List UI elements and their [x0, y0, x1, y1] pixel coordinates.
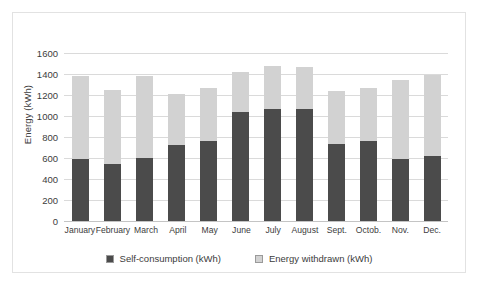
- stacked-bar[interactable]: [136, 76, 153, 221]
- bar-segment-energy-withdrawn[interactable]: [264, 66, 281, 109]
- x-tick-label: Octob.: [353, 225, 385, 235]
- y-tick-label-0: 0: [53, 216, 58, 227]
- legend-label: Energy withdrawn (kWh): [269, 253, 372, 264]
- x-tick-label: January: [64, 225, 96, 235]
- stacked-bar[interactable]: [232, 72, 249, 221]
- bar-segment-energy-withdrawn[interactable]: [72, 76, 89, 159]
- stacked-bar[interactable]: [360, 88, 377, 221]
- bar-segment-energy-withdrawn[interactable]: [296, 67, 313, 110]
- x-tick-label: June: [226, 225, 258, 235]
- bar-segment-energy-withdrawn[interactable]: [104, 90, 121, 164]
- stacked-bar[interactable]: [392, 80, 409, 221]
- bar-segment-energy-withdrawn[interactable]: [328, 91, 345, 145]
- stacked-bar[interactable]: [424, 75, 441, 221]
- bar-slot: [288, 53, 320, 221]
- y-tick-label-1000: 1000: [37, 111, 58, 122]
- chart-legend: Self-consumption (kWh)Energy withdrawn (…: [13, 253, 465, 264]
- bar-slot: [192, 53, 224, 221]
- bar-segment-self-consumption[interactable]: [136, 158, 153, 221]
- bar-segment-self-consumption[interactable]: [296, 109, 313, 221]
- stacked-bar[interactable]: [296, 67, 313, 221]
- y-tick-label-400: 400: [42, 174, 58, 185]
- bar-segment-self-consumption[interactable]: [360, 141, 377, 221]
- bar-segment-self-consumption[interactable]: [72, 159, 89, 221]
- plot-area: 16001400120010008006004002000: [64, 53, 448, 221]
- bar-segment-energy-withdrawn[interactable]: [360, 88, 377, 141]
- bar-segment-self-consumption[interactable]: [232, 112, 249, 221]
- bar-segment-self-consumption[interactable]: [104, 164, 121, 221]
- stacked-bar[interactable]: [168, 94, 185, 221]
- stacked-bar[interactable]: [328, 91, 345, 221]
- legend-item[interactable]: Self-consumption (kWh): [106, 253, 221, 264]
- x-tick-label: May: [194, 225, 226, 235]
- bar-slot: [416, 53, 448, 221]
- stacked-bar[interactable]: [200, 88, 217, 221]
- y-axis-title: Energy (kWh): [22, 60, 33, 170]
- x-tick-label: Dec.: [416, 225, 448, 235]
- y-tick-label-1200: 1200: [37, 90, 58, 101]
- y-tick-label-1600: 1600: [37, 48, 58, 59]
- legend-swatch-icon: [106, 255, 114, 263]
- y-tick-label-600: 600: [42, 153, 58, 164]
- x-tick-label: April: [162, 225, 194, 235]
- bar-segment-self-consumption[interactable]: [424, 156, 441, 221]
- bar-slot: [256, 53, 288, 221]
- bar-slot: [128, 53, 160, 221]
- bar-segment-self-consumption[interactable]: [200, 141, 217, 221]
- stacked-bar[interactable]: [104, 90, 121, 221]
- bar-series-group: [64, 53, 448, 221]
- bar-slot: [64, 53, 96, 221]
- bar-segment-self-consumption[interactable]: [328, 144, 345, 221]
- bar-slot: [96, 53, 128, 221]
- x-tick-label: August: [289, 225, 321, 235]
- legend-label: Self-consumption (kWh): [120, 253, 221, 264]
- bar-segment-energy-withdrawn[interactable]: [200, 88, 217, 141]
- bar-segment-energy-withdrawn[interactable]: [168, 94, 185, 145]
- bar-segment-energy-withdrawn[interactable]: [392, 80, 409, 159]
- x-axis-tick-labels: JanuaryFebruaryMarchAprilMayJuneJulyAugu…: [64, 225, 448, 235]
- x-tick-label: Nov.: [384, 225, 416, 235]
- y-tick-label-1400: 1400: [37, 69, 58, 80]
- legend-swatch-icon: [255, 255, 263, 263]
- bar-segment-energy-withdrawn[interactable]: [232, 72, 249, 112]
- x-tick-label: March: [130, 225, 162, 235]
- legend-item[interactable]: Energy withdrawn (kWh): [255, 253, 372, 264]
- stacked-bar[interactable]: [72, 76, 89, 221]
- bar-segment-energy-withdrawn[interactable]: [424, 75, 441, 156]
- bar-segment-self-consumption[interactable]: [168, 145, 185, 221]
- bar-segment-energy-withdrawn[interactable]: [136, 76, 153, 158]
- bar-slot: [352, 53, 384, 221]
- x-tick-label: July: [257, 225, 289, 235]
- chart-figure: Energy (kWh) 160014001200100080060040020…: [12, 12, 466, 273]
- stacked-bar[interactable]: [264, 66, 281, 221]
- bar-slot: [160, 53, 192, 221]
- y-tick-label-200: 200: [42, 195, 58, 206]
- bar-segment-self-consumption[interactable]: [264, 109, 281, 221]
- y-tick-label-800: 800: [42, 132, 58, 143]
- x-tick-label: Sept.: [321, 225, 353, 235]
- bar-slot: [320, 53, 352, 221]
- bar-slot: [384, 53, 416, 221]
- gridline-0: [64, 221, 448, 222]
- bar-segment-self-consumption[interactable]: [392, 159, 409, 221]
- x-tick-label: February: [96, 225, 130, 235]
- bar-slot: [224, 53, 256, 221]
